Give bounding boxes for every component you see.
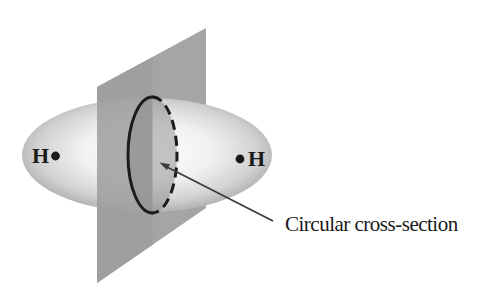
right-atom-label: H xyxy=(248,146,265,171)
h2-cross-section-diagram: H H Circular cross-section xyxy=(0,0,486,296)
left-atom-label: H xyxy=(32,143,49,168)
annotation-label: Circular cross-section xyxy=(285,212,459,236)
right-nucleus-dot xyxy=(236,155,245,164)
diagram-canvas: H H Circular cross-section xyxy=(0,0,486,296)
left-nucleus-dot xyxy=(51,152,60,161)
